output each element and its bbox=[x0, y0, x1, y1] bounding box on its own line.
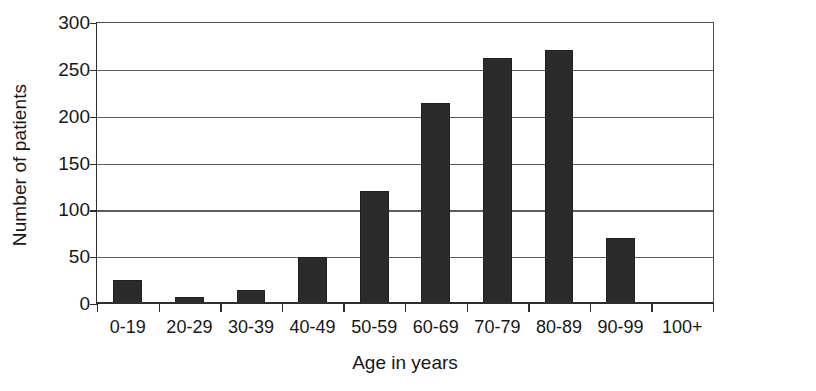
x-tick-mark bbox=[282, 303, 283, 312]
bar bbox=[360, 191, 389, 304]
x-tick-label: 40-49 bbox=[290, 316, 336, 338]
y-tick-label: 150 bbox=[40, 153, 90, 172]
x-tick-label: 70-79 bbox=[474, 316, 520, 338]
bar-series bbox=[97, 23, 713, 304]
x-tick-mark bbox=[713, 303, 714, 312]
x-axis-tick-labels: 0-1920-2930-3940-4950-5960-6970-7980-899… bbox=[97, 316, 713, 344]
y-tick-label: 200 bbox=[40, 106, 90, 125]
y-tick-mark bbox=[90, 210, 97, 211]
bar bbox=[113, 280, 142, 304]
y-tick-mark bbox=[90, 70, 97, 71]
x-tick-label: 90-99 bbox=[598, 316, 644, 338]
x-tick-label: 50-59 bbox=[351, 316, 397, 338]
bar bbox=[237, 290, 266, 304]
y-tick-mark bbox=[90, 23, 97, 24]
y-tick-label: 50 bbox=[40, 247, 90, 266]
x-axis-tick-marks bbox=[97, 303, 713, 313]
x-tick-label: 80-89 bbox=[536, 316, 582, 338]
x-axis-title: Age in years bbox=[97, 352, 713, 374]
x-tick-mark bbox=[467, 303, 468, 312]
bar bbox=[298, 257, 327, 304]
x-tick-label: 60-69 bbox=[413, 316, 459, 338]
bar bbox=[421, 103, 450, 304]
x-tick-label: 0-19 bbox=[110, 316, 146, 338]
y-axis-tick-labels: 050100150200250300 bbox=[40, 0, 90, 330]
x-tick-mark bbox=[159, 303, 160, 312]
x-tick-mark bbox=[651, 303, 652, 312]
y-tick-mark bbox=[90, 117, 97, 118]
y-tick-mark bbox=[90, 164, 97, 165]
x-tick-mark bbox=[528, 303, 529, 312]
y-tick-mark bbox=[90, 257, 97, 258]
x-tick-mark bbox=[97, 303, 98, 312]
x-tick-mark bbox=[405, 303, 406, 312]
y-axis-title-text: Number of patients bbox=[9, 84, 31, 246]
x-tick-mark bbox=[590, 303, 591, 312]
bar bbox=[606, 238, 635, 304]
y-tick-mark bbox=[90, 304, 97, 305]
y-tick-label: 100 bbox=[40, 200, 90, 219]
x-tick-mark bbox=[343, 303, 344, 312]
bar-chart-figure: Number of patients 050100150200250300 0-… bbox=[0, 0, 816, 391]
x-tick-label: 20-29 bbox=[166, 316, 212, 338]
x-tick-mark bbox=[220, 303, 221, 312]
y-tick-label: 300 bbox=[40, 13, 90, 32]
y-axis-title: Number of patients bbox=[0, 0, 40, 330]
y-tick-label: 0 bbox=[40, 294, 90, 313]
bar bbox=[483, 58, 512, 304]
bar bbox=[545, 50, 574, 304]
x-tick-label: 100+ bbox=[662, 316, 703, 338]
x-tick-label: 30-39 bbox=[228, 316, 274, 338]
plot-area bbox=[97, 22, 714, 304]
y-tick-label: 250 bbox=[40, 59, 90, 78]
